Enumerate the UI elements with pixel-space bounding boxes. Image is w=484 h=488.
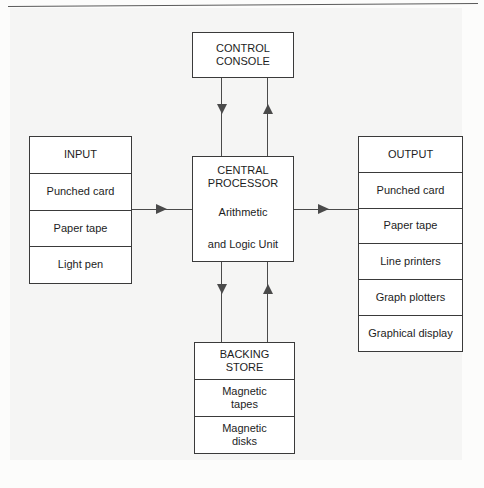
- control-console-label: CONTROL CONSOLE: [193, 33, 293, 77]
- connector-console-to-cpu-arrowhead: [217, 104, 227, 114]
- connector-console-to-cpu-line: [221, 78, 222, 156]
- block-backing-store: BACKING STORE Magnetic tapes Magnetic di…: [194, 342, 295, 454]
- block-output: OUTPUT Punched card Paper tape Line prin…: [358, 136, 463, 352]
- backing-store-item-magnetic-tapes: Magnetic tapes: [195, 379, 294, 416]
- output-item-graphical-display: Graphical display: [359, 315, 462, 351]
- cpu-header: CENTRAL PROCESSOR: [193, 157, 293, 197]
- connector-backing-store-to-cpu-arrowhead: [263, 284, 273, 294]
- output-item-line-printers: Line printers: [359, 243, 462, 279]
- connector-cpu-to-backing-store-arrowhead: [217, 284, 227, 294]
- block-central-processor: CENTRAL PROCESSOR Arithmetic and Logic U…: [192, 156, 294, 262]
- output-item-punched-card: Punched card: [359, 172, 462, 208]
- input-item-paper-tape: Paper tape: [30, 210, 131, 247]
- connector-input-to-cpu-arrowhead: [156, 204, 167, 214]
- input-header: INPUT: [30, 137, 131, 173]
- backing-store-item-magnetic-disks: Magnetic disks: [195, 416, 294, 453]
- connector-cpu-to-output-arrowhead: [318, 204, 329, 214]
- cpu-line-arithmetic: Arithmetic: [193, 197, 293, 229]
- output-item-paper-tape: Paper tape: [359, 208, 462, 244]
- block-input: INPUT Punched card Paper tape Light pen: [29, 136, 132, 284]
- backing-store-header: BACKING STORE: [195, 343, 294, 379]
- input-item-punched-card: Punched card: [30, 173, 131, 210]
- cpu-line-logic-unit: and Logic Unit: [193, 229, 293, 261]
- connector-cpu-to-console-arrowhead: [263, 104, 273, 114]
- input-item-light-pen: Light pen: [30, 246, 131, 283]
- output-header: OUTPUT: [359, 137, 462, 172]
- block-control-console: CONTROL CONSOLE: [192, 32, 294, 78]
- connector-cpu-to-backing-store-line: [221, 262, 222, 342]
- page-top-rule: [8, 3, 478, 7]
- connector-backing-store-to-cpu-line: [267, 262, 268, 342]
- output-item-graph-plotters: Graph plotters: [359, 279, 462, 315]
- connector-cpu-to-console-line: [267, 78, 268, 156]
- scanned-page: CONTROL CONSOLE INPUT Punched card Paper…: [0, 0, 484, 488]
